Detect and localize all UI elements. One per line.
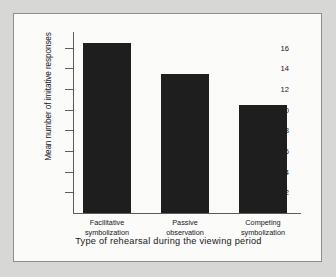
y-axis-line (73, 32, 74, 214)
x-axis-category-label: Competing symbolization (211, 218, 315, 237)
y-axis-tick (65, 68, 73, 69)
y-axis-tick (65, 192, 73, 193)
y-axis-tick (65, 151, 73, 152)
y-axis-tick (65, 48, 73, 49)
y-axis-tick (65, 172, 73, 173)
bar-passive-observation (161, 74, 209, 213)
figure-frame: Mean number of imitative responses 2 4 6… (13, 13, 322, 262)
y-axis-tick (65, 130, 73, 131)
y-axis-tick (65, 110, 73, 111)
y-axis-tick-label: 12 (281, 84, 289, 93)
x-axis-category-label-line: Competing (211, 218, 315, 228)
x-axis-title: Type of rehearsal during the viewing per… (14, 236, 323, 246)
x-axis-line (73, 213, 301, 214)
y-axis-tick-label: 16 (281, 43, 289, 52)
plot-area: 2 4 6 8 10 12 14 16 Facilitative symboli… (73, 32, 301, 214)
y-axis-tick-label: 14 (281, 64, 289, 73)
bar-competing-symbolization (239, 105, 287, 213)
y-axis-tick (65, 89, 73, 90)
y-axis-title: Mean number of imitative responses (44, 17, 53, 177)
bar-facilitative-symbolization (83, 43, 131, 213)
